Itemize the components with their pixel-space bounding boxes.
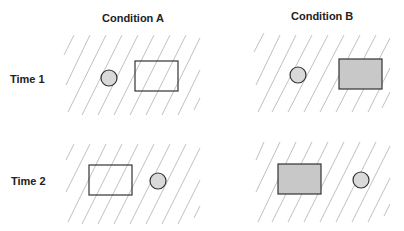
rectangle-shape bbox=[278, 164, 321, 194]
hatch-lines bbox=[256, 142, 390, 222]
rectangle-shape bbox=[89, 165, 132, 195]
row-label-time-1: Time 1 bbox=[10, 73, 45, 85]
panel-time2-condition-b bbox=[252, 138, 392, 228]
hatch-lines bbox=[66, 144, 200, 224]
circle-shape bbox=[353, 172, 369, 188]
panel-time1-condition-a bbox=[62, 30, 202, 120]
hatch-lines bbox=[64, 35, 200, 115]
column-label-condition-a: Condition A bbox=[102, 12, 164, 24]
panel-time1-condition-b bbox=[252, 30, 392, 120]
circle-shape bbox=[150, 173, 166, 189]
panel-time2-condition-a bbox=[62, 138, 202, 228]
circle-shape bbox=[290, 67, 306, 83]
circle-shape bbox=[101, 70, 117, 86]
rectangle-shape bbox=[135, 61, 178, 91]
column-label-condition-b: Condition B bbox=[291, 10, 353, 22]
rectangle-shape bbox=[339, 59, 382, 89]
row-label-time-2: Time 2 bbox=[11, 175, 46, 187]
